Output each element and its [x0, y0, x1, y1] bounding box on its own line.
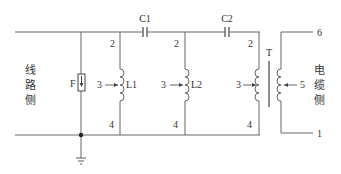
- l2-tap-arrow-icon: [179, 83, 183, 87]
- l1-tap-arrow-icon: [114, 83, 118, 87]
- l1-pin2: 2: [110, 38, 115, 49]
- sec-pin6: 6: [317, 27, 322, 38]
- inductor-l2: [185, 69, 189, 101]
- cable-side-char-2: 缆: [314, 79, 325, 92]
- arrester-label: F: [70, 78, 76, 89]
- line-side-char-2: 路: [25, 79, 36, 92]
- inductor-l1: [120, 69, 124, 101]
- transformer-label: T: [266, 47, 272, 58]
- junction-dot: [79, 133, 83, 137]
- l1-pin4: 4: [109, 119, 114, 130]
- line-side-char-3: 侧: [25, 94, 36, 107]
- sec-tap-arrow-icon: [284, 83, 288, 87]
- capacitor-c1: [140, 27, 150, 37]
- t-pin4: 4: [247, 119, 252, 130]
- c1-label: C1: [139, 13, 151, 24]
- l2-pin3: 3: [161, 79, 166, 90]
- line-side-char-1: 线: [25, 63, 36, 77]
- circuit-diagram: C1 C2 F 3 L1 2 4 3 L2 2 4 3 2 4: [0, 0, 341, 174]
- l2-pin2: 2: [174, 38, 179, 49]
- capacitor-c2: [222, 27, 232, 37]
- l1-pin3: 3: [97, 79, 102, 90]
- l1-label: L1: [126, 79, 137, 90]
- l2-label: L2: [191, 79, 202, 90]
- ground-icon: [76, 158, 86, 164]
- transformer-secondary: [277, 69, 281, 101]
- t-pin3: 3: [236, 79, 241, 90]
- t-pin2: 2: [248, 38, 253, 49]
- sec-pin5: 5: [300, 79, 305, 90]
- c2-label: C2: [221, 13, 233, 24]
- sec-pin1: 1: [317, 128, 322, 139]
- cable-side-char-3: 侧: [314, 94, 325, 107]
- cable-side-char-1: 电: [314, 64, 325, 77]
- l2-pin4: 4: [173, 119, 178, 130]
